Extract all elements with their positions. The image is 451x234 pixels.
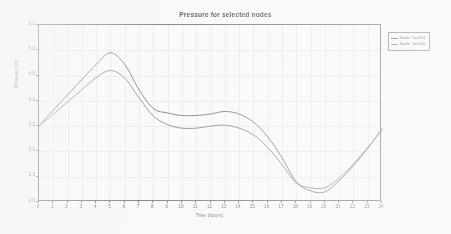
y-axis-tick-label: 3.5 [21, 123, 35, 128]
x-axis-tick-label: 23 [362, 205, 372, 210]
x-axis-tick-label: 21 [333, 205, 343, 210]
y-axis-tick-label: 5.5 [21, 22, 35, 27]
chart-figure: Pressure for selected nodes Pressure (m)… [0, 0, 451, 234]
y-axis-tick-label: 3.0 [21, 148, 35, 153]
x-axis-tick-label: 4 [90, 205, 100, 210]
x-axis-label: Time (hours) [38, 213, 381, 218]
x-axis-tick-label: 15 [247, 205, 257, 210]
x-axis-tick-label: 19 [305, 205, 315, 210]
x-axis-tick-label: 10 [176, 205, 186, 210]
x-axis-tick-label: 7 [133, 205, 143, 210]
x-axis-tick-label: 16 [262, 205, 272, 210]
x-axis-tick-label: 13 [219, 205, 229, 210]
x-axis-tick-label: 11 [190, 205, 200, 210]
x-axis-tick-label: 2 [62, 205, 72, 210]
x-axis-tick-label: 1 [47, 205, 57, 210]
chart-legend: Node Tank51Node Tank52 [388, 32, 430, 51]
y-axis-tick-label: 5.0 [21, 47, 35, 52]
x-axis-tick-label: 0 [33, 205, 43, 210]
legend-line-swatch-icon [391, 38, 398, 39]
y-axis-tick-label: 4.5 [21, 72, 35, 77]
chart-title: Pressure for selected nodes [0, 11, 451, 18]
x-axis-tick-label: 8 [147, 205, 157, 210]
y-axis-tick-label: 4.0 [21, 98, 35, 103]
legend-label: Node Tank52 [400, 42, 426, 46]
y-axis-label: Pressure (m) [14, 60, 19, 88]
x-axis-tick-label: 12 [205, 205, 215, 210]
legend-line-swatch-icon [391, 44, 398, 45]
x-axis-tick-label: 24 [376, 205, 386, 210]
x-axis-tick-label: 22 [347, 205, 357, 210]
series-line-2 [39, 71, 382, 189]
plot-area [38, 24, 381, 201]
y-axis-tick-label: 2.5 [21, 173, 35, 178]
x-axis-tick-label: 14 [233, 205, 243, 210]
x-axis-tick-label: 6 [119, 205, 129, 210]
legend-entry[interactable]: Node Tank52 [391, 41, 426, 47]
x-axis-tick-label: 3 [76, 205, 86, 210]
series-container [39, 25, 382, 202]
y-axis-tick-label: 2.0 [21, 199, 35, 204]
x-axis-tick-label: 20 [319, 205, 329, 210]
x-axis-tick-label: 9 [162, 205, 172, 210]
legend-label: Node Tank51 [400, 36, 426, 40]
series-line-1 [39, 53, 382, 193]
x-axis-tick-label: 18 [290, 205, 300, 210]
x-axis-tick-label: 5 [104, 205, 114, 210]
x-axis-tick-label: 17 [276, 205, 286, 210]
